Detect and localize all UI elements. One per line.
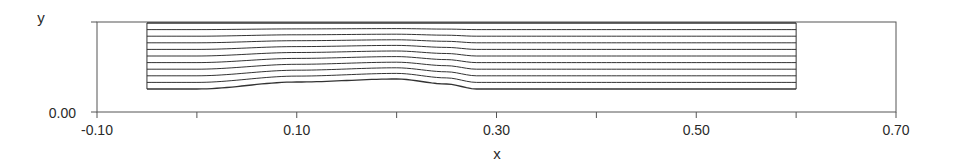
mesh-line bbox=[147, 51, 796, 56]
x-tick-label: 0.30 bbox=[483, 122, 510, 138]
axes-frame bbox=[91, 22, 896, 112]
mesh-chart: y 0.00 x -0.100.100.300.500.70 bbox=[0, 0, 956, 166]
mesh-line bbox=[147, 45, 796, 49]
x-tick-label: 0.70 bbox=[882, 122, 909, 138]
mesh-line bbox=[147, 57, 796, 63]
y-tick-label-zero: 0.00 bbox=[49, 105, 76, 121]
x-tick-label: 0.10 bbox=[283, 122, 310, 138]
plot-border bbox=[97, 22, 896, 112]
y-axis-label: y bbox=[37, 9, 45, 26]
x-axis-ticks bbox=[97, 112, 896, 118]
mesh-line bbox=[147, 79, 796, 89]
x-axis-label: x bbox=[493, 145, 501, 162]
mesh-line bbox=[147, 73, 796, 82]
mesh-line bbox=[147, 40, 796, 43]
x-tick-label: 0.50 bbox=[683, 122, 710, 138]
x-tick-labels: -0.100.100.300.500.70 bbox=[81, 122, 910, 138]
mesh-line bbox=[147, 34, 796, 36]
mesh-line bbox=[147, 29, 796, 30]
x-tick-label: -0.10 bbox=[81, 122, 113, 138]
mesh-grid bbox=[147, 23, 796, 89]
mesh-line bbox=[147, 62, 796, 69]
